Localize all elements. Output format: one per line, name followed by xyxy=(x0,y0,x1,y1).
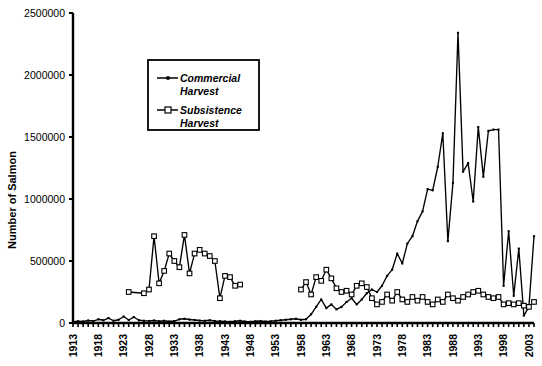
data-point-marker xyxy=(396,253,398,255)
data-point-marker xyxy=(503,285,505,287)
data-point-marker xyxy=(451,296,456,301)
data-point-marker xyxy=(172,259,177,264)
data-point-marker xyxy=(97,318,99,320)
data-point-marker xyxy=(401,262,403,264)
data-point-marker xyxy=(163,320,165,322)
x-tick-label: 1913 xyxy=(67,334,79,358)
data-point-marker xyxy=(371,288,373,290)
x-tick-label: 1983 xyxy=(421,334,433,358)
legend-label: Subsistence xyxy=(180,104,242,116)
chart-legend: CommercialHarvestSubsistenceHarvest xyxy=(148,60,259,130)
data-point-marker xyxy=(183,318,185,320)
data-point-marker xyxy=(142,291,147,296)
data-point-marker xyxy=(275,320,277,322)
data-point-marker xyxy=(299,287,304,292)
data-point-marker xyxy=(472,200,474,202)
salmon-harvest-chart: Number of Salmon 05000001000000150000020… xyxy=(0,0,542,366)
data-point-marker xyxy=(214,320,216,322)
data-point-marker xyxy=(264,320,266,322)
data-point-marker xyxy=(319,279,324,284)
data-point-marker xyxy=(173,320,175,322)
data-point-marker xyxy=(158,320,160,322)
x-tick-label: 1943 xyxy=(219,334,231,358)
data-point-marker xyxy=(204,320,206,322)
data-point-marker xyxy=(467,162,469,164)
data-point-marker xyxy=(249,321,251,323)
data-point-marker xyxy=(340,306,342,308)
x-tick-label: 1928 xyxy=(143,334,155,358)
data-point-marker xyxy=(315,306,317,308)
data-point-marker xyxy=(523,315,525,317)
legend-marker-open-square xyxy=(165,107,171,113)
data-point-marker xyxy=(188,318,190,320)
data-point-marker xyxy=(366,292,368,294)
data-point-marker xyxy=(406,243,408,245)
x-tick-label: 1993 xyxy=(472,334,484,358)
data-point-marker xyxy=(385,292,390,297)
data-point-marker xyxy=(234,320,236,322)
data-point-marker xyxy=(492,129,494,131)
data-point-marker xyxy=(476,288,481,293)
y-axis-label-group: Number of Salmon xyxy=(6,151,18,249)
data-point-marker xyxy=(239,320,241,322)
data-point-marker xyxy=(118,319,120,321)
legend-label-line2: Harvest xyxy=(180,85,219,97)
x-tick-label: 1938 xyxy=(193,334,205,358)
data-point-marker xyxy=(330,303,332,305)
data-point-marker xyxy=(82,320,84,322)
data-point-marker xyxy=(491,296,496,301)
chart-canvas: Number of Salmon 05000001000000150000020… xyxy=(0,0,542,366)
data-point-marker xyxy=(228,275,233,280)
data-point-marker xyxy=(213,259,218,264)
x-tick-label: 1918 xyxy=(92,334,104,358)
data-point-marker xyxy=(506,301,511,306)
data-point-marker xyxy=(92,320,94,322)
data-point-marker xyxy=(477,126,479,128)
data-point-marker xyxy=(126,290,131,295)
data-point-marker xyxy=(229,321,231,323)
data-point-marker xyxy=(391,269,393,271)
data-point-marker xyxy=(209,319,211,321)
data-point-marker xyxy=(456,298,461,303)
x-tick-label: 1923 xyxy=(117,334,129,358)
x-tick-label: 1948 xyxy=(244,334,256,358)
data-point-marker xyxy=(425,300,430,305)
data-point-marker xyxy=(304,280,309,285)
x-tick-label: 2003 xyxy=(523,334,535,358)
y-tick-label: 2000000 xyxy=(24,69,65,81)
series-subsistence xyxy=(126,233,536,310)
data-point-marker xyxy=(344,288,349,293)
data-point-marker xyxy=(427,188,429,190)
data-point-marker xyxy=(376,291,378,293)
data-point-marker xyxy=(410,295,415,300)
data-point-marker xyxy=(324,267,329,272)
data-point-marker xyxy=(305,318,307,320)
data-point-marker xyxy=(452,182,454,184)
data-series-group xyxy=(72,32,536,323)
data-point-marker xyxy=(405,300,410,305)
data-point-marker xyxy=(339,290,344,295)
data-point-marker xyxy=(295,318,297,320)
data-point-marker xyxy=(194,319,196,321)
data-point-marker xyxy=(329,276,334,281)
data-point-marker xyxy=(233,284,238,289)
data-point-marker xyxy=(177,265,182,270)
data-point-marker xyxy=(168,320,170,322)
data-point-marker xyxy=(148,320,150,322)
data-point-marker xyxy=(471,290,476,295)
data-point-marker xyxy=(486,295,491,300)
data-point-marker xyxy=(508,230,510,232)
data-point-marker xyxy=(300,319,302,321)
data-point-marker xyxy=(522,303,527,308)
data-point-marker xyxy=(335,308,337,310)
data-point-marker xyxy=(290,318,292,320)
data-point-marker xyxy=(518,248,520,250)
data-point-marker xyxy=(432,189,434,191)
data-point-marker xyxy=(447,240,449,242)
data-point-marker xyxy=(349,292,354,297)
data-point-marker xyxy=(162,269,167,274)
x-tick-label: 1988 xyxy=(447,334,459,358)
data-point-marker xyxy=(532,300,537,305)
data-point-marker xyxy=(309,292,314,297)
data-point-marker xyxy=(356,303,358,305)
